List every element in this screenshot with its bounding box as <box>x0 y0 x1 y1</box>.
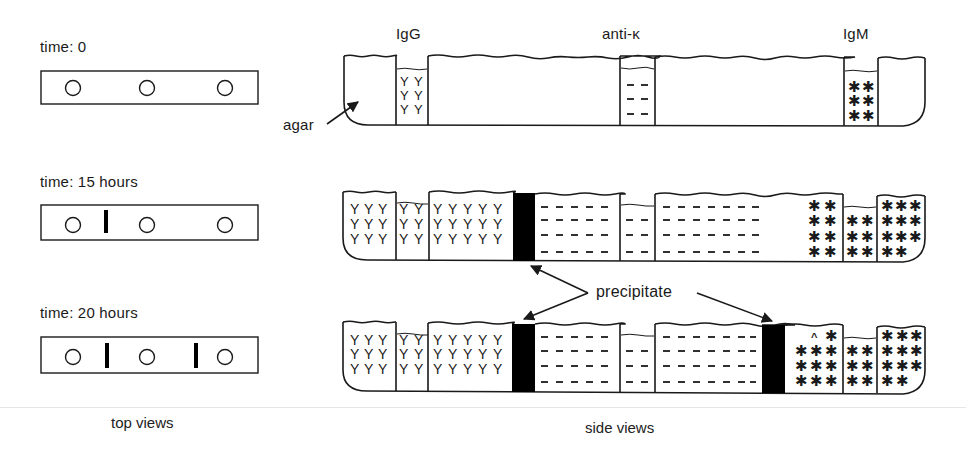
svg-text:Y: Y <box>414 201 424 217</box>
well-icon <box>218 81 233 96</box>
svg-text:Y: Y <box>350 361 360 377</box>
svg-text:Y: Y <box>364 361 374 377</box>
svg-text:✱: ✱ <box>861 212 874 229</box>
svg-text:✱: ✱ <box>808 243 821 260</box>
svg-text:✱: ✱ <box>909 228 922 245</box>
svg-text:Y: Y <box>350 201 360 217</box>
svg-text:✱: ✱ <box>881 243 894 260</box>
well-icon <box>66 218 81 233</box>
svg-text:✱: ✱ <box>895 212 908 229</box>
svg-text:Y: Y <box>364 201 374 217</box>
svg-text:Y: Y <box>399 231 409 247</box>
svg-text:✱: ✱ <box>824 212 837 229</box>
side-view-15h-anti-kappa <box>541 207 759 252</box>
svg-text:Y: Y <box>378 361 388 377</box>
svg-text:Y: Y <box>378 231 388 247</box>
svg-text:Y: Y <box>478 346 488 362</box>
precipitate-band-icon <box>105 343 109 368</box>
svg-text:✱: ✱ <box>846 243 859 260</box>
side-view-0-symbols: YY YY YY <box>400 74 423 117</box>
well-icon <box>66 350 81 365</box>
svg-text:Y: Y <box>350 216 360 232</box>
svg-text:✱: ✱ <box>795 372 808 389</box>
svg-text:✱: ✱ <box>881 372 894 389</box>
svg-text:Y: Y <box>414 102 423 117</box>
svg-text:✱: ✱ <box>909 212 922 229</box>
svg-text:Y: Y <box>493 201 503 217</box>
precipitate-band-icon <box>194 343 198 368</box>
svg-text:Y: Y <box>448 346 458 362</box>
svg-text:Y: Y <box>400 74 409 89</box>
svg-text:Y: Y <box>400 88 409 103</box>
svg-text:Y: Y <box>399 346 409 362</box>
svg-text:Y: Y <box>399 216 409 232</box>
svg-text:✱: ✱ <box>810 372 823 389</box>
svg-text:Y: Y <box>414 216 424 232</box>
side-view-15h <box>343 191 925 262</box>
side-view-0-igm: ✱✱ ✱✱ ✱✱ <box>848 78 875 124</box>
svg-text:Y: Y <box>448 216 458 232</box>
well-icon <box>140 218 155 233</box>
svg-text:Y: Y <box>478 216 488 232</box>
svg-text:Y: Y <box>364 231 374 247</box>
svg-text:Y: Y <box>400 102 409 117</box>
svg-text:✱: ✱ <box>846 372 859 389</box>
svg-text:Y: Y <box>350 346 360 362</box>
svg-text:Y: Y <box>433 361 443 377</box>
svg-text:Y: Y <box>463 346 473 362</box>
agar-arrow-icon <box>327 102 358 124</box>
side-view-20h-anti-kappa <box>541 337 756 382</box>
precipitate-band-icon <box>762 325 785 393</box>
svg-text:Y: Y <box>493 361 503 377</box>
svg-text:✱: ✱ <box>862 107 875 124</box>
well-icon <box>140 81 155 96</box>
svg-text:Y: Y <box>378 346 388 362</box>
well-icon <box>218 350 233 365</box>
svg-text:Y: Y <box>378 216 388 232</box>
side-view-20h-igm: ^✱ ✱✱✱ ✱✱✱ ✱✱✱ ✱✱ ✱✱ ✱✱ ✱✱✱ ✱✱✱ ✱✱✱ ✱✱ <box>795 327 923 389</box>
svg-text:Y: Y <box>364 216 374 232</box>
svg-text:Y: Y <box>414 361 424 377</box>
svg-text:Y: Y <box>433 216 443 232</box>
precipitate-arrow-icon <box>524 293 588 319</box>
svg-text:Y: Y <box>463 361 473 377</box>
svg-text:Y: Y <box>433 231 443 247</box>
svg-text:Y: Y <box>478 201 488 217</box>
diffusion-diagram: YY YY YY ✱✱ ✱✱ ✱✱ YYY YYY YYY YY YY YY <box>0 0 966 449</box>
svg-text:Y: Y <box>364 346 374 362</box>
svg-text:Y: Y <box>493 231 503 247</box>
svg-text:Y: Y <box>448 231 458 247</box>
svg-text:Y: Y <box>399 201 409 217</box>
side-view-15h-igg: YYY YYY YYY YY YY YY YYYYY YYYYY YYYYY <box>350 201 503 247</box>
svg-text:Y: Y <box>414 231 424 247</box>
svg-text:Y: Y <box>414 346 424 362</box>
side-view-20h <box>343 321 925 394</box>
svg-text:✱: ✱ <box>861 372 874 389</box>
svg-text:Y: Y <box>478 231 488 247</box>
svg-text:✱: ✱ <box>895 243 908 260</box>
well-icon <box>66 81 81 96</box>
svg-text:Y: Y <box>478 361 488 377</box>
svg-text:✱: ✱ <box>825 372 838 389</box>
svg-text:Y: Y <box>378 201 388 217</box>
svg-text:✱: ✱ <box>910 357 923 374</box>
svg-text:Y: Y <box>463 201 473 217</box>
side-view-15h-igm: ✱✱ ✱✱ ✱✱ ✱✱ ✱✱ ✱✱ ✱✱ ✱✱✱ ✱✱✱ ✱✱✱ ✱✱ <box>808 197 922 260</box>
svg-text:Y: Y <box>448 361 458 377</box>
top-view-0 <box>41 71 258 104</box>
svg-text:Y: Y <box>350 231 360 247</box>
svg-text:✱: ✱ <box>808 212 821 229</box>
top-view-20h <box>41 337 258 373</box>
precipitate-arrow-icon <box>531 266 588 293</box>
well-icon <box>140 350 155 365</box>
svg-text:Y: Y <box>414 88 423 103</box>
svg-text:✱: ✱ <box>848 107 861 124</box>
precipitate-band-icon <box>513 193 535 261</box>
top-view-15h <box>41 205 258 240</box>
svg-text:Y: Y <box>493 346 503 362</box>
svg-text:Y: Y <box>463 216 473 232</box>
svg-text:Y: Y <box>433 201 443 217</box>
svg-text:Y: Y <box>448 201 458 217</box>
svg-text:Y: Y <box>433 346 443 362</box>
svg-text:✱: ✱ <box>896 372 909 389</box>
